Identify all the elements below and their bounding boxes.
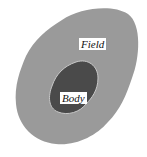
field-label: Field [79,38,106,50]
diagram-canvas [0,0,147,157]
body-label: Body [60,92,87,104]
